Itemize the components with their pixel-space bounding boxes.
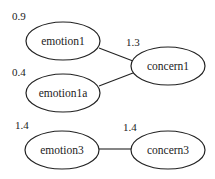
node-concern1[interactable]: 1.3 concern1: [126, 36, 205, 85]
node-label-emotion3: emotion3: [40, 144, 84, 156]
node-label-concern3: concern3: [147, 144, 189, 156]
weight-label-concern3: 1.4: [123, 121, 137, 133]
weight-label-concern1: 1.3: [126, 36, 140, 48]
node-emotion1a[interactable]: 0.4 emotion1a: [12, 66, 100, 112]
node-concern3[interactable]: 1.4 concern3: [123, 121, 205, 169]
node-emotion1[interactable]: 0.9 emotion1: [12, 10, 100, 60]
edge-emotion1-concern1: [99, 48, 133, 61]
node-label-emotion1: emotion1: [41, 35, 85, 47]
weight-label-emotion3: 1.4: [15, 119, 29, 131]
edge-emotion1a-concern1: [99, 73, 133, 86]
node-label-emotion1a: emotion1a: [39, 87, 88, 99]
weight-label-emotion1a: 0.4: [12, 66, 26, 78]
weight-label-emotion1: 0.9: [12, 10, 26, 22]
node-label-concern1: concern1: [147, 60, 189, 72]
diagram-canvas: 0.9 emotion1 0.4 emotion1a 1.3 concern1 …: [0, 0, 215, 179]
node-emotion3[interactable]: 1.4 emotion3: [15, 119, 99, 169]
